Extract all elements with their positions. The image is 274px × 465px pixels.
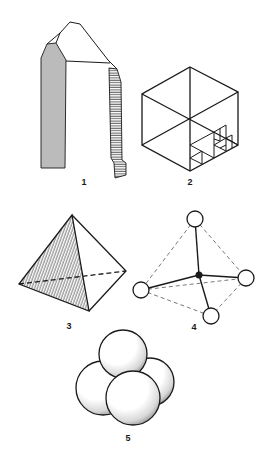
figure-drawing xyxy=(0,0,274,465)
panel-label-3: 3 xyxy=(66,322,71,331)
hexagon-figure xyxy=(142,67,238,171)
sphere-front xyxy=(106,371,160,425)
crystal-figure xyxy=(41,22,126,178)
atom-left xyxy=(133,282,149,298)
atom-right xyxy=(238,270,254,286)
tetrahedron-figure xyxy=(19,215,126,311)
panel-label-1: 1 xyxy=(81,178,86,187)
ball-stick-figure xyxy=(133,211,254,324)
panel-label-2: 2 xyxy=(187,178,192,187)
figure-canvas: 1 2 3 4 5 xyxy=(0,0,274,465)
spheres-figure xyxy=(76,330,174,425)
atom-top xyxy=(187,211,203,227)
atom-bottom xyxy=(203,308,219,324)
sphere-top xyxy=(99,330,147,378)
central-atom xyxy=(196,272,203,279)
panel-label-4: 4 xyxy=(191,323,196,332)
panel-label-5: 5 xyxy=(125,434,130,443)
